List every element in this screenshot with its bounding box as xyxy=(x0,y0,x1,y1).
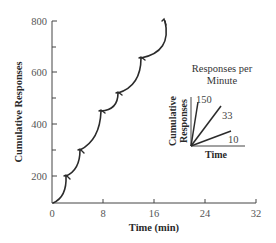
x-tick-24: 24 xyxy=(200,208,211,219)
arrow-marker-icon xyxy=(64,175,70,179)
rate-label-150: 150 xyxy=(196,94,212,105)
x-axis-title: Time (min) xyxy=(129,222,180,234)
y-axis-title: Cumulative Responses xyxy=(13,61,24,162)
y-tick-200: 200 xyxy=(31,171,47,182)
arrow-marker-icon xyxy=(78,149,84,153)
cumulative-record-chart: 800 600 400 200 Cumulative Responses 0 8… xyxy=(0,0,276,243)
x-tick-8: 8 xyxy=(100,208,105,219)
x-tick-32: 32 xyxy=(251,208,262,219)
inset-ylabel-line1: Cumulative xyxy=(167,95,178,146)
y-axis: 800 600 400 200 Cumulative Responses xyxy=(13,16,57,203)
inset-ylabel-line2: Responses xyxy=(178,99,189,143)
x-axis: 0 8 16 24 32 Time (min) xyxy=(49,199,261,234)
y-tick-400: 400 xyxy=(31,119,47,130)
inset-xlabel: Time xyxy=(205,149,228,160)
y-tick-800: 800 xyxy=(31,16,47,27)
arrow-marker-icon xyxy=(162,19,166,25)
scallop-curve xyxy=(53,21,166,203)
x-tick-16: 16 xyxy=(149,208,160,219)
inset-title-line1: Responses per xyxy=(192,63,253,74)
inset-title-line2: Minute xyxy=(207,75,238,86)
y-tick-600: 600 xyxy=(31,67,47,78)
rate-inset: Responses per Minute Cumulative Response… xyxy=(167,63,253,160)
x-tick-0: 0 xyxy=(49,208,54,219)
rate-line-150 xyxy=(191,102,198,146)
rate-label-33: 33 xyxy=(222,110,233,121)
rate-label-10: 10 xyxy=(228,134,239,145)
